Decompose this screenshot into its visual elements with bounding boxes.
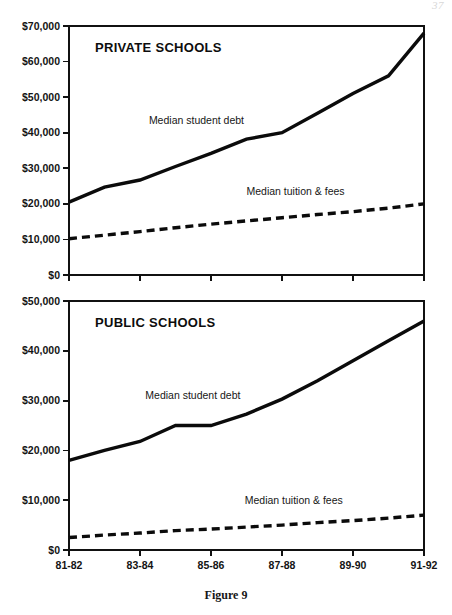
x-axis-tick-label: 91-92	[411, 559, 438, 570]
y-axis-tick-label: $40,000	[22, 344, 60, 356]
chart-panel-private-schools: $0$10,000$20,000$30,000$40,000$50,000$60…	[0, 0, 452, 290]
chart-panel-public-schools: $0$10,000$20,000$30,000$40,000$50,00081-…	[0, 290, 452, 570]
y-axis-tick-label: $20,000	[22, 197, 60, 209]
series-annotation-label: Median tuition & fees	[247, 185, 345, 197]
x-axis-tick-label: 83-84	[127, 559, 154, 570]
chart-panel-title: PUBLIC SCHOOLS	[95, 315, 216, 330]
y-axis-tick-label: $60,000	[22, 55, 60, 67]
series-line-tuition-fees	[69, 515, 424, 537]
y-axis-tick-label: $40,000	[22, 126, 60, 138]
y-axis-tick-label: $0	[48, 269, 60, 281]
y-axis-tick-label: $0	[48, 544, 60, 556]
series-line-student-debt	[69, 33, 424, 202]
series-annotation-label: Median student debt	[149, 114, 244, 126]
y-axis-tick-label: $30,000	[22, 394, 60, 406]
series-line-tuition-fees	[69, 204, 424, 239]
y-axis-tick-label: $50,000	[22, 91, 60, 103]
series-annotation-label: Median tuition & fees	[245, 494, 343, 506]
y-axis-tick-label: $20,000	[22, 444, 60, 456]
series-annotation-label: Median student debt	[145, 389, 240, 401]
y-axis-tick-label: $10,000	[22, 233, 60, 245]
figure-caption: Figure 9	[0, 588, 452, 603]
y-axis-tick-label: $30,000	[22, 162, 60, 174]
y-axis-tick-label: $70,000	[22, 20, 60, 32]
chart-panel-title: PRIVATE SCHOOLS	[95, 40, 222, 55]
series-line-student-debt	[69, 321, 424, 460]
x-axis-tick-label: 81-82	[56, 559, 83, 570]
x-axis-tick-label: 89-90	[340, 559, 367, 570]
figure-root: 37 $0$10,000$20,000$30,000$40,000$50,000…	[0, 0, 452, 615]
y-axis-tick-label: $10,000	[22, 494, 60, 506]
y-axis-tick-label: $50,000	[22, 295, 60, 307]
x-axis-tick-label: 85-86	[198, 559, 225, 570]
x-axis-tick-label: 87-88	[269, 559, 296, 570]
